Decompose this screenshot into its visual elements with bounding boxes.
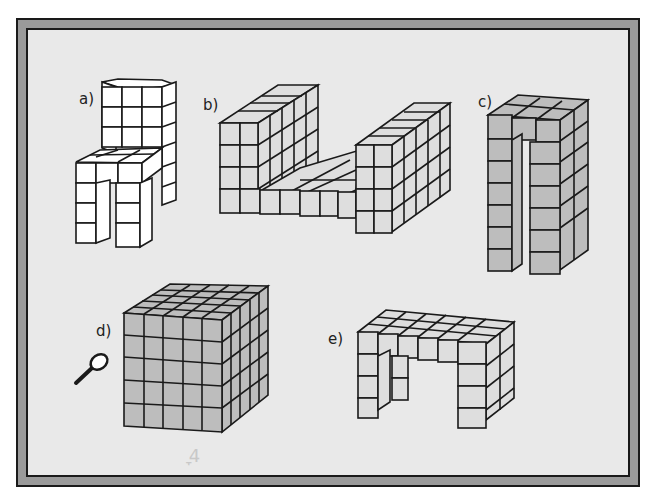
label-d: d) — [96, 322, 111, 340]
faint-pencil-marks: ׇ 4 — [183, 445, 200, 466]
label-c: c) — [478, 93, 492, 111]
cube-structures-illustration — [0, 0, 654, 497]
magnifying-glass-icon — [76, 351, 110, 383]
label-a: a) — [79, 90, 94, 108]
label-e: e) — [328, 330, 343, 348]
structure-c-arch — [488, 95, 588, 274]
structure-b-u-shape — [220, 85, 450, 233]
structure-d-cube — [124, 284, 268, 432]
structure-e-table — [358, 310, 514, 428]
label-b: b) — [203, 96, 218, 114]
